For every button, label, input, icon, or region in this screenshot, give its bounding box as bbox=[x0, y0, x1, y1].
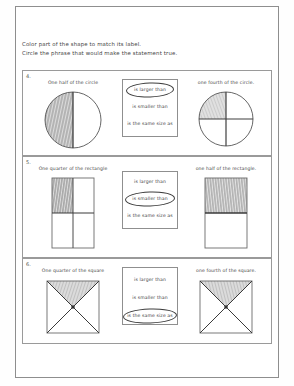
phrase-option-1[interactable]: is smaller than bbox=[123, 196, 177, 201]
phrase-option-label: is the same size as bbox=[127, 313, 173, 318]
problem-left-column: One quarter of the rectangle bbox=[27, 157, 119, 257]
left-shape-label: One quarter of the square bbox=[27, 268, 119, 273]
problem-right-column: one half of the rectangle. bbox=[181, 157, 271, 257]
right-shape-label: one half of the rectangle. bbox=[181, 166, 271, 171]
instruction-line-2: Circle the phrase that would make the st… bbox=[22, 49, 262, 58]
phrase-option-2[interactable]: is the same size as bbox=[123, 213, 177, 218]
problem-phrase-column: is larger than is smaller than is the sa… bbox=[121, 259, 179, 343]
left-shape-label: One quarter of the rectangle bbox=[27, 166, 119, 171]
phrase-option-label: is smaller than bbox=[132, 196, 167, 201]
phrase-box: is larger than is smaller than is the sa… bbox=[122, 171, 178, 229]
rectangle-halves-top-shaded-figure[interactable] bbox=[204, 177, 248, 249]
worksheet-page: Color part of the shape to match its lab… bbox=[0, 0, 294, 386]
rectangle-quarters-topleft-shaded-figure[interactable] bbox=[51, 177, 95, 249]
problem-right-column: one fourth of the square. bbox=[181, 259, 271, 343]
square-diagonals-top-shaded-figure[interactable] bbox=[198, 279, 254, 335]
phrase-option-1[interactable]: is smaller than bbox=[123, 104, 177, 109]
phrase-option-0[interactable]: is larger than bbox=[123, 277, 177, 282]
square-diagonals-top-shaded-figure[interactable] bbox=[45, 279, 101, 335]
phrase-option-1[interactable]: is smaller than bbox=[123, 295, 177, 300]
phrase-option-label: is larger than bbox=[134, 277, 166, 282]
instruction-line-1: Color part of the shape to match its lab… bbox=[22, 40, 262, 49]
problem-left-column: One half of the circle bbox=[27, 71, 119, 155]
problem-item: 4. One half of the circle bbox=[22, 70, 272, 156]
problem-phrase-column: is larger than is smaller than is the sa… bbox=[121, 71, 179, 155]
left-shape-label: One half of the circle bbox=[27, 80, 119, 85]
phrase-option-2[interactable]: is the same size as bbox=[123, 121, 177, 126]
right-shape-label: one fourth of the square. bbox=[181, 268, 271, 273]
circle-halves-left-shaded-figure[interactable] bbox=[44, 91, 102, 149]
phrase-option-label: is smaller than bbox=[132, 104, 167, 109]
phrase-option-label: is larger than bbox=[134, 87, 166, 92]
phrase-option-label: is the same size as bbox=[127, 121, 173, 126]
problem-phrase-column: is larger than is smaller than is the sa… bbox=[121, 157, 179, 257]
right-shape-label: one fourth of the circle. bbox=[181, 80, 271, 85]
phrase-option-0[interactable]: is larger than bbox=[123, 179, 177, 184]
phrase-option-label: is smaller than bbox=[132, 295, 167, 300]
phrase-box: is larger than is smaller than is the sa… bbox=[122, 79, 178, 137]
problem-item: 6. One quarter of the square bbox=[22, 258, 272, 344]
phrase-option-2[interactable]: is the same size as bbox=[123, 313, 177, 318]
problem-item: 5. One quarter of the rectangle bbox=[22, 156, 272, 258]
problem-left-column: One quarter of the square bbox=[27, 259, 119, 343]
instructions-block: Color part of the shape to match its lab… bbox=[22, 40, 262, 58]
phrase-option-0[interactable]: is larger than bbox=[123, 87, 177, 92]
phrase-option-label: is the same size as bbox=[127, 213, 173, 218]
circle-quarters-topleft-shaded-figure[interactable] bbox=[198, 91, 254, 147]
phrase-box: is larger than is smaller than is the sa… bbox=[122, 267, 178, 325]
problem-right-column: one fourth of the circle. bbox=[181, 71, 271, 155]
phrase-option-label: is larger than bbox=[134, 179, 166, 184]
